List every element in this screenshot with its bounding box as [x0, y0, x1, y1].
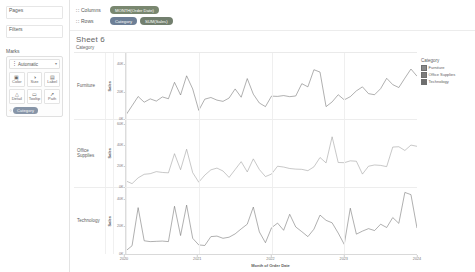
y-axis-title: Sales	[106, 188, 114, 254]
x-axis-title: Month of Order Date	[251, 263, 290, 268]
rows-field-area[interactable]: Category SUM(Sales)	[110, 17, 471, 25]
chart-pane: Office SuppliesSales0K20K40K60K	[74, 120, 417, 187]
marks-path-label: Path	[48, 97, 56, 101]
vertical-gridline	[126, 188, 127, 254]
grip-icon: ∷	[76, 8, 79, 13]
legend-item-label: Technology	[429, 79, 449, 84]
columns-pill-month-order-date[interactable]: MONTH(Order Date)	[110, 6, 159, 14]
rows-pill-sum-sales[interactable]: SUM(Sales)	[140, 17, 173, 25]
rows-shelf-name: ∷ Rows	[76, 18, 110, 24]
columns-field-area[interactable]: MONTH(Order Date)	[110, 6, 471, 14]
legend-title: Category	[421, 58, 473, 63]
vertical-gridline	[126, 120, 127, 186]
y-axis-tick-label: 20K	[117, 164, 123, 168]
plot-area-office-supplies[interactable]	[126, 120, 417, 186]
marks-card-body: ⋮ Automatic ▾ ▣ Color ◑ Size ▤	[6, 56, 63, 117]
x-axis-spacer-axis-title	[106, 254, 113, 270]
row-header-technology: Technology	[74, 188, 106, 254]
rows-pill-category[interactable]: Category	[110, 17, 137, 25]
y-axis-ticks: 0K20K40K	[114, 188, 126, 254]
x-axis: Month of Order Date 20202021202220232024	[74, 254, 417, 270]
viz-region: Sheet 6 Category FurnitureSales0K20K40KO…	[70, 31, 475, 272]
y-axis-tick-label: 40K	[117, 143, 123, 147]
y-axis-ticks: 0K20K40K60K	[114, 120, 126, 186]
left-panel: Pages Filters Marks ⋮ Automatic ▾ ▣ Col	[0, 0, 70, 272]
x-axis-tick-label: 2022	[266, 257, 274, 261]
marks-detail-label: Detail	[12, 97, 22, 101]
x-axis-tick-label: 2023	[340, 257, 348, 261]
y-axis-title: Sales	[106, 53, 114, 119]
chevron-down-icon: ▾	[55, 62, 57, 66]
y-axis-title-text: Sales	[107, 81, 112, 91]
pages-shelf[interactable]: Pages	[6, 6, 63, 19]
legend-item-label: Furniture	[429, 65, 445, 70]
marks-category-pill[interactable]: Category	[13, 107, 38, 114]
vertical-gridline	[199, 188, 200, 254]
y-axis-title-text: Sales	[107, 148, 112, 158]
row-header-furniture: Furniture	[74, 53, 106, 119]
legend-swatch-icon	[421, 72, 427, 78]
vertical-gridline	[272, 53, 273, 119]
y-axis-ticks: 0K20K40K	[114, 53, 126, 119]
x-axis-spacer-row-header	[74, 254, 106, 270]
y-axis-tick-label: 0K	[119, 252, 123, 256]
main-area: ∷ Columns MONTH(Order Date) ∷ Rows Categ…	[70, 0, 475, 272]
pages-shelf-label: Pages	[6, 6, 63, 19]
grip-icon: ∷	[76, 19, 79, 24]
legend-item[interactable]: Furniture	[421, 65, 473, 71]
mark-type-dropdown[interactable]: ⋮ Automatic ▾	[9, 59, 60, 69]
filters-shelf[interactable]: Filters	[6, 25, 63, 38]
vertical-gridline	[272, 188, 273, 254]
y-axis-tick-label: 40K	[117, 62, 123, 66]
y-axis-title: Sales	[106, 120, 114, 186]
color-pill-icon: ⁘	[9, 108, 12, 113]
x-axis-tick-label: 2024	[413, 257, 421, 261]
legend-item[interactable]: Technology	[421, 79, 473, 85]
vertical-gridline	[126, 53, 127, 119]
viz-body: Sheet 6 Category FurnitureSales0K20K40KO…	[74, 34, 417, 270]
plot-area-furniture[interactable]	[126, 53, 417, 119]
chart-panes: FurnitureSales0K20K40KOffice SuppliesSal…	[74, 53, 417, 254]
line-chart-icon: ⋮	[12, 61, 17, 66]
shelves-region: ∷ Columns MONTH(Order Date) ∷ Rows Categ…	[70, 0, 475, 31]
filters-shelf-label: Filters	[6, 25, 63, 38]
rows-shelf[interactable]: ∷ Rows Category SUM(Sales)	[76, 17, 471, 25]
marks-label-button[interactable]: ▤ Label	[44, 72, 60, 87]
columns-shelf[interactable]: ∷ Columns MONTH(Order Date)	[76, 6, 471, 14]
marks-color-button[interactable]: ▣ Color	[9, 72, 25, 87]
y-axis-tick-label: 20K	[117, 90, 123, 94]
category-column-header: Category	[74, 45, 417, 53]
marks-detail-button[interactable]: △ Detail	[9, 89, 25, 104]
marks-button-grid: ▣ Color ◑ Size ▤ Label △ Detail	[9, 72, 60, 104]
mark-type-value: Automatic	[18, 62, 38, 67]
vertical-gridline	[344, 120, 345, 186]
legend-item-label: Office Supplies	[429, 72, 456, 77]
chart-pane: TechnologySales0K20K40K	[74, 188, 417, 254]
marks-path-button[interactable]: ↗ Path	[44, 89, 60, 104]
y-axis-tick-label: 40K	[117, 197, 123, 201]
marks-tooltip-button[interactable]: ▭ Tooltip	[27, 89, 43, 104]
vertical-gridline	[344, 53, 345, 119]
marks-size-button[interactable]: ◑ Size	[27, 72, 43, 87]
legend-swatch-icon	[421, 65, 427, 71]
row-header-office-supplies: Office Supplies	[74, 120, 106, 186]
vertical-gridline	[344, 188, 345, 254]
marks-label-label: Label	[47, 80, 57, 84]
y-axis-tick-label: 20K	[117, 224, 123, 228]
marks-card-title: Marks	[6, 48, 63, 54]
marks-card: Marks ⋮ Automatic ▾ ▣ Color ◑	[6, 48, 63, 117]
marks-tooltip-label: Tooltip	[29, 97, 41, 101]
legend-item[interactable]: Office Supplies	[421, 72, 473, 78]
color-legend: Category FurnitureOffice SuppliesTechnol…	[417, 34, 473, 270]
vertical-gridline	[199, 53, 200, 119]
x-axis-tick-label: 2020	[120, 257, 128, 261]
plot-area-technology[interactable]	[126, 188, 417, 254]
marks-size-label: Size	[31, 80, 39, 84]
x-axis-line: Month of Order Date 20202021202220232024	[124, 254, 417, 270]
marks-color-label: Color	[12, 80, 22, 84]
vertical-gridline	[272, 120, 273, 186]
legend-swatch-icon	[421, 79, 427, 85]
columns-label: Columns	[81, 7, 101, 13]
x-axis-tick-label: 2021	[193, 257, 201, 261]
page-title: Sheet 6	[74, 34, 417, 45]
